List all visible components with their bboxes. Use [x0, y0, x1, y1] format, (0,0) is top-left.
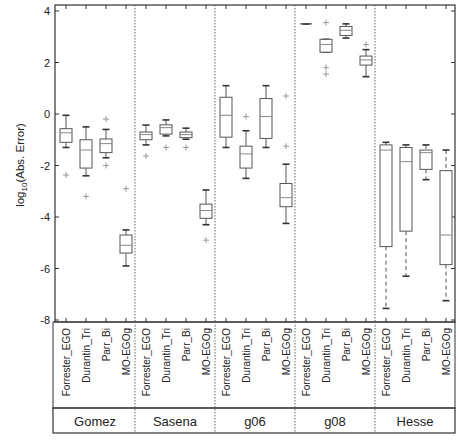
y-tick-label: 0 [44, 108, 50, 120]
outlier-plus-icon [363, 41, 369, 47]
method-label: Parr_Bi [101, 328, 112, 361]
method-label: MO-EGOg [121, 328, 132, 375]
box-gomez-forrester_ego [60, 115, 72, 178]
group-label-sasena: Sasena [153, 414, 198, 429]
method-label: Parr_Bi [421, 328, 432, 361]
group-label-gomez: Gomez [74, 414, 116, 429]
outlier-plus-icon [283, 143, 289, 149]
box-sasena-durantin_tri [160, 120, 172, 151]
plot-area [55, 5, 455, 322]
box-iqr [160, 125, 172, 134]
y-tick-label: 4 [44, 5, 50, 17]
box-g06-parr_bi [260, 86, 272, 148]
box-sasena-parr_bi [180, 128, 192, 150]
box-g08-parr_bi [340, 24, 352, 38]
box-iqr [260, 99, 272, 139]
box-iqr [440, 171, 452, 265]
boxplot-chart: log10(Abs. Error) 420-2-4-6-8 Forrester_… [0, 0, 458, 441]
method-label: MO-EGOg [441, 328, 452, 375]
method-label: Durantin_Tri [321, 328, 332, 383]
outlier-plus-icon [63, 172, 69, 178]
box-hesse-forrester_ego [380, 142, 392, 308]
box-hesse-durantin_tri [400, 145, 412, 276]
box-g06-durantin_tri [240, 114, 252, 179]
outlier-plus-icon [103, 116, 109, 122]
box-iqr [380, 145, 392, 247]
box-iqr [280, 184, 292, 207]
outlier-plus-icon [183, 144, 189, 150]
method-label: Forrester_EGO [301, 328, 312, 397]
outlier-plus-icon [163, 144, 169, 150]
y-tick-label: -4 [40, 211, 50, 223]
box-sasena-mo-egog [200, 190, 212, 243]
method-label: MO-EGOg [281, 328, 292, 375]
svg-text:log10(Abs. Error): log10(Abs. Error) [14, 123, 29, 207]
box-iqr [60, 129, 72, 143]
y-tick-label: 2 [44, 57, 50, 69]
method-label: MO-EGOg [361, 328, 372, 375]
box-gomez-durantin_tri [80, 127, 92, 200]
method-label: Forrester_EGO [381, 328, 392, 397]
box-iqr [140, 132, 152, 140]
method-label: Durantin_Tri [241, 328, 252, 383]
outlier-plus-icon [323, 65, 329, 71]
plot-frame [55, 5, 455, 322]
outlier-plus-icon [103, 163, 109, 169]
outlier-plus-icon [203, 237, 209, 243]
box-gomez-mo-egog [120, 186, 132, 266]
box-iqr [100, 139, 112, 153]
box-iqr [120, 235, 132, 253]
outlier-plus-icon [123, 186, 129, 192]
method-label: Forrester_EGO [221, 328, 232, 397]
y-axis-label: log10(Abs. Error) [14, 123, 29, 207]
outlier-plus-icon [323, 71, 329, 77]
method-label: Parr_Bi [261, 328, 272, 361]
method-label: Durantin_Tri [81, 328, 92, 383]
y-axis-label-rest: (Abs. Error) [14, 123, 26, 183]
outlier-plus-icon [283, 93, 289, 99]
box-gomez-parr_bi [100, 116, 112, 168]
box-sasena-forrester_ego [140, 125, 152, 159]
outlier-plus-icon [323, 20, 329, 26]
box-g08-durantin_tri [320, 20, 332, 78]
box-g06-mo-egog [280, 93, 292, 223]
box-iqr [320, 39, 332, 52]
box-iqr [80, 140, 92, 168]
y-axis-label-base: log [14, 191, 26, 206]
group-label-hesse: Hesse [397, 414, 434, 429]
box-iqr [340, 26, 352, 35]
method-label: Forrester_EGO [61, 328, 72, 397]
box-g08-mo-egog [360, 41, 372, 76]
method-label: Forrester_EGO [141, 328, 152, 397]
method-label: MO-EGOg [201, 328, 212, 375]
y-tick-label: -6 [40, 263, 50, 275]
box-hesse-mo-egog [440, 150, 452, 301]
method-label: Parr_Bi [341, 328, 352, 361]
method-label-frame [53, 322, 455, 408]
method-label: Parr_Bi [181, 328, 192, 361]
box-hesse-parr_bi [420, 145, 432, 180]
method-label: Durantin_Tri [161, 328, 172, 383]
box-iqr [400, 147, 412, 231]
x-axis-group-labels: GomezSasenag06g08Hesse [53, 408, 455, 433]
y-tick-label: -8 [40, 314, 50, 326]
box-g06-forrester_ego [220, 86, 232, 148]
outlier-plus-icon [83, 193, 89, 199]
outlier-plus-icon [143, 153, 149, 159]
group-label-g08: g08 [324, 414, 346, 429]
method-label: Durantin_Tri [401, 328, 412, 383]
box-iqr [200, 204, 212, 218]
box-iqr [220, 97, 232, 137]
box-iqr [360, 56, 372, 65]
y-tick-label: -2 [40, 160, 50, 172]
group-label-g06: g06 [244, 414, 266, 429]
outlier-plus-icon [243, 114, 249, 120]
box-iqr [240, 146, 252, 168]
